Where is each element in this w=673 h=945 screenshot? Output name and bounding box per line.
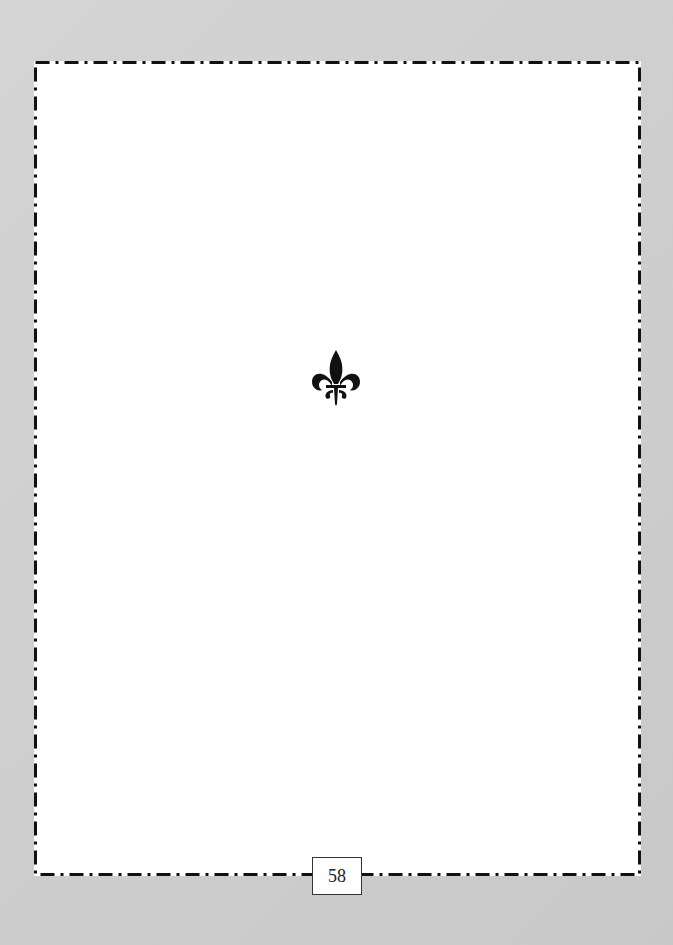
page-frame [34,61,641,876]
page-number: 58 [328,866,346,887]
dash-dot-border [34,61,641,876]
fleur-de-lis-icon [310,348,362,406]
page-number-box: 58 [312,857,362,895]
